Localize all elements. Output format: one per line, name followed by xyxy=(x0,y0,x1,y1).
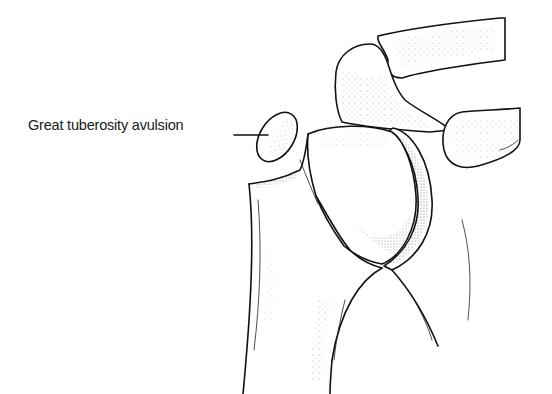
annotation-label: Great tuberosity avulsion xyxy=(28,117,183,133)
illustration-canvas: Great tuberosity avulsion xyxy=(0,0,552,394)
clavicle xyxy=(378,18,505,78)
humeral-head xyxy=(307,126,416,264)
shoulder-illustration xyxy=(0,0,552,394)
avulsed-fragment[interactable] xyxy=(248,105,305,169)
coracoid-process xyxy=(443,108,520,167)
